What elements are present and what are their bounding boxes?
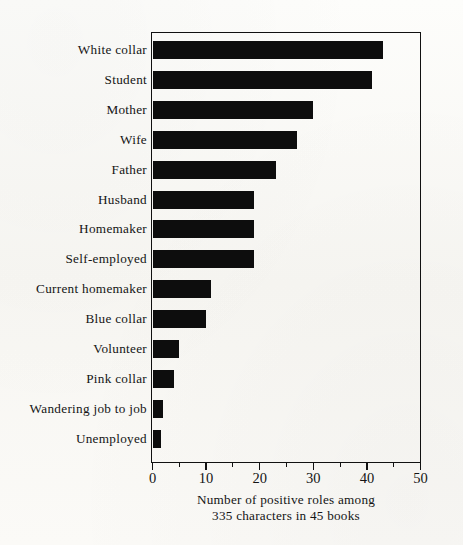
caption-line-2: 335 characters in 45 books bbox=[151, 508, 421, 524]
x-tick-label: 30 bbox=[306, 470, 321, 486]
bar bbox=[153, 430, 161, 448]
x-tick-major bbox=[205, 463, 206, 470]
x-tick-major bbox=[420, 463, 421, 470]
x-tick-minor bbox=[179, 463, 180, 467]
axis-caption: Number of positive roles among 335 chara… bbox=[151, 492, 421, 523]
bar bbox=[153, 220, 255, 238]
bar bbox=[153, 370, 174, 388]
category-label: Mother bbox=[1, 103, 147, 117]
x-tick-label: 50 bbox=[413, 470, 428, 486]
category-label: Student bbox=[1, 73, 147, 87]
bar bbox=[153, 340, 180, 358]
plot-area bbox=[151, 32, 421, 463]
bar bbox=[153, 41, 383, 59]
caption-line-1: Number of positive roles among bbox=[151, 492, 421, 508]
category-label: Volunteer bbox=[1, 342, 147, 356]
x-tick-minor bbox=[286, 463, 287, 467]
chart-page: White collarStudentMotherWifeFatherHusba… bbox=[0, 0, 463, 545]
x-tick-minor bbox=[393, 463, 394, 467]
x-tick-major bbox=[313, 463, 314, 470]
bar bbox=[153, 101, 314, 119]
category-label: Wife bbox=[1, 133, 147, 147]
bar bbox=[153, 191, 255, 209]
category-label: Unemployed bbox=[1, 432, 147, 446]
x-tick-label: 40 bbox=[360, 470, 375, 486]
category-label: White collar bbox=[1, 43, 147, 57]
category-label: Wandering job to job bbox=[1, 402, 147, 416]
bar bbox=[153, 280, 212, 298]
category-label: Self-employed bbox=[1, 252, 147, 266]
category-label: Father bbox=[1, 163, 147, 177]
category-label: Pink collar bbox=[1, 372, 147, 386]
bar bbox=[153, 310, 207, 328]
bar bbox=[153, 161, 276, 179]
x-tick-major bbox=[366, 463, 367, 470]
bar bbox=[153, 71, 373, 89]
x-tick-label: 20 bbox=[252, 470, 267, 486]
x-tick-minor bbox=[340, 463, 341, 467]
bar bbox=[153, 250, 255, 268]
category-label: Blue collar bbox=[1, 312, 147, 326]
x-tick-minor bbox=[232, 463, 233, 467]
x-tick-label: 10 bbox=[199, 470, 214, 486]
category-label: Husband bbox=[1, 193, 147, 207]
category-label: Current homemaker bbox=[1, 282, 147, 296]
bar bbox=[153, 131, 298, 149]
x-tick-major bbox=[259, 463, 260, 470]
category-labels: White collarStudentMotherWifeFatherHusba… bbox=[0, 0, 147, 545]
category-label: Homemaker bbox=[1, 222, 147, 236]
bar bbox=[153, 400, 164, 418]
x-tick-major bbox=[152, 463, 153, 470]
x-tick-label: 0 bbox=[149, 470, 156, 486]
